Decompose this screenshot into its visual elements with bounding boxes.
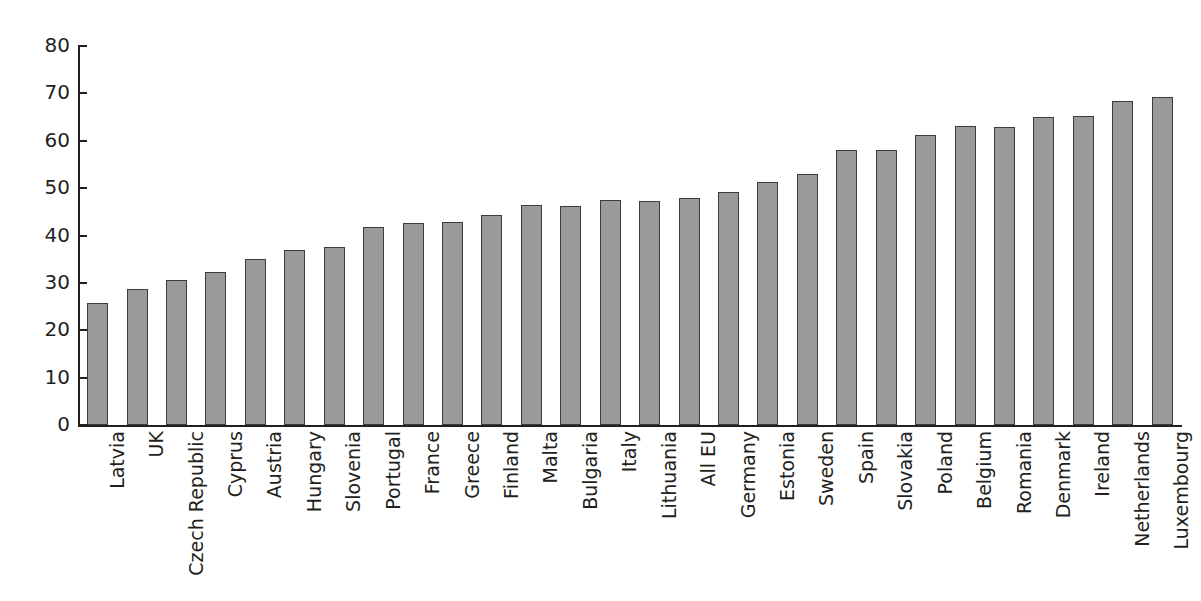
- x-axis-tick-label: UK: [147, 405, 166, 431]
- bar[interactable]: [797, 174, 818, 425]
- x-axis-tick-label: Czech Republic: [187, 286, 206, 431]
- x-axis-tick-labels: LatviaUKCzech RepublicCyprusAustriaHunga…: [78, 431, 1182, 596]
- x-axis-tick-label: Austria: [265, 364, 284, 431]
- x-label-slot: Hungary: [275, 431, 314, 596]
- x-axis-tick-label: Italy: [620, 390, 639, 431]
- x-axis-tick-label: Cyprus: [226, 365, 245, 431]
- x-label-slot: Poland: [906, 431, 945, 596]
- bar[interactable]: [481, 215, 502, 425]
- x-axis-tick-label: Luxembourg: [1172, 313, 1191, 431]
- bar[interactable]: [639, 201, 660, 425]
- bar[interactable]: [1033, 117, 1054, 425]
- x-axis-tick-label: Sweden: [817, 356, 836, 431]
- x-axis-tick-label: Bulgaria: [581, 352, 600, 431]
- y-axis-tick-label: 70: [28, 82, 70, 102]
- x-label-slot: Romania: [985, 431, 1024, 596]
- bar[interactable]: [363, 227, 384, 425]
- x-axis-tick-label: Ireland: [1093, 365, 1112, 431]
- bar[interactable]: [955, 126, 976, 425]
- bar[interactable]: [757, 182, 778, 426]
- bar[interactable]: [1112, 101, 1133, 425]
- x-label-slot: UK: [117, 431, 156, 596]
- x-axis-tick-label: France: [423, 368, 442, 431]
- y-axis-tick-label: 80: [28, 35, 70, 55]
- x-axis-tick-label: Poland: [936, 368, 955, 431]
- x-axis-tick-label: Slovenia: [344, 350, 363, 431]
- y-axis-tick-label: 10: [28, 367, 70, 387]
- x-axis-tick-label: All EU: [699, 375, 718, 431]
- bar[interactable]: [87, 303, 108, 425]
- bar[interactable]: [560, 206, 581, 425]
- x-axis-tick-label: Belgium: [975, 353, 994, 431]
- bar[interactable]: [876, 150, 897, 425]
- y-axis-tick-labels: 01020304050607080: [22, 0, 70, 601]
- x-label-slot: Belgium: [945, 431, 984, 596]
- x-label-slot: All EU: [669, 431, 708, 596]
- bar[interactable]: [324, 247, 345, 425]
- x-label-slot: Finland: [472, 431, 511, 596]
- x-axis-tick-label: Lithuania: [660, 343, 679, 431]
- bar[interactable]: [718, 192, 739, 425]
- x-label-slot: France: [393, 431, 432, 596]
- x-label-slot: Spain: [827, 431, 866, 596]
- y-axis-tick-label: 30: [28, 272, 70, 292]
- x-axis-tick-label: Latvia: [108, 373, 127, 431]
- y-axis-tick-label: 20: [28, 319, 70, 339]
- x-label-slot: Bulgaria: [551, 431, 590, 596]
- x-label-slot: Cyprus: [196, 431, 235, 596]
- bar[interactable]: [284, 250, 305, 425]
- x-label-slot: Sweden: [788, 431, 827, 596]
- x-axis-tick-label: Netherlands: [1133, 315, 1152, 431]
- x-label-slot: Germany: [709, 431, 748, 596]
- x-label-slot: Ireland: [1064, 431, 1103, 596]
- x-label-slot: Greece: [433, 431, 472, 596]
- x-label-slot: Malta: [512, 431, 551, 596]
- bar[interactable]: [600, 200, 621, 425]
- x-axis-tick-label: Estonia: [778, 361, 797, 431]
- bar[interactable]: [994, 127, 1015, 425]
- y-axis-tick-label: 60: [28, 130, 70, 150]
- bar[interactable]: [205, 272, 226, 425]
- x-axis-tick-label: Denmark: [1054, 344, 1073, 431]
- y-axis-tick-label: 50: [28, 177, 70, 197]
- x-label-slot: Denmark: [1024, 431, 1063, 596]
- x-label-slot: Netherlands: [1103, 431, 1142, 596]
- x-axis-tick-label: Finland: [502, 363, 521, 431]
- bar[interactable]: [1152, 97, 1173, 425]
- y-axis-tick-label: 40: [28, 225, 70, 245]
- bar[interactable]: [442, 222, 463, 425]
- x-axis-tick-label: Malta: [541, 379, 560, 431]
- x-axis-tick-label: Portugal: [384, 352, 403, 431]
- x-label-slot: Slovenia: [315, 431, 354, 596]
- x-label-slot: Austria: [236, 431, 275, 596]
- x-label-slot: Lithuania: [630, 431, 669, 596]
- bar[interactable]: [403, 223, 424, 425]
- bar[interactable]: [679, 198, 700, 425]
- bar[interactable]: [915, 135, 936, 425]
- x-axis-tick-label: Romania: [1015, 348, 1034, 431]
- x-label-slot: Estonia: [748, 431, 787, 596]
- bar-slot: [117, 46, 156, 425]
- x-axis-tick-label: Germany: [739, 344, 758, 431]
- x-axis-tick-label: Slovakia: [896, 351, 915, 431]
- x-label-slot: Italy: [591, 431, 630, 596]
- bar[interactable]: [836, 150, 857, 425]
- bar[interactable]: [1073, 116, 1094, 425]
- x-axis-tick-label: Hungary: [305, 350, 324, 431]
- bar-slot: [78, 46, 117, 425]
- bar-chart: 01020304050607080 LatviaUKCzech Republic…: [0, 0, 1201, 601]
- x-label-slot: Luxembourg: [1143, 431, 1182, 596]
- x-axis-tick-label: Spain: [857, 378, 876, 431]
- x-label-slot: Czech Republic: [157, 431, 196, 596]
- x-label-slot: Slovakia: [867, 431, 906, 596]
- y-axis-tick-label: 0: [28, 414, 70, 434]
- x-label-slot: Portugal: [354, 431, 393, 596]
- bar[interactable]: [245, 259, 266, 425]
- x-axis-tick-label: Greece: [463, 363, 482, 431]
- x-label-slot: Latvia: [78, 431, 117, 596]
- bar[interactable]: [127, 289, 148, 425]
- bar[interactable]: [521, 205, 542, 425]
- bar[interactable]: [166, 280, 187, 425]
